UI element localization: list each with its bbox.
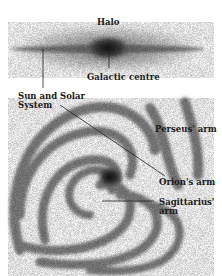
- galaxy-diagram: [0, 0, 222, 276]
- perseus-arm-label: Perseus' arm: [155, 125, 217, 134]
- orion-arm-label: Orion's arm: [159, 178, 215, 187]
- sagittarius-arm-label-line2: arm: [159, 207, 178, 216]
- sun-label-line2: System: [18, 101, 52, 110]
- galactic-centre-label: Galactic centre: [87, 73, 160, 82]
- stipple-texture: [8, 22, 214, 78]
- halo-label: Halo: [97, 18, 119, 27]
